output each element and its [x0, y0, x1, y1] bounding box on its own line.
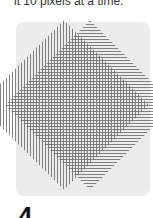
document-page: it 10 pixels at a time. 4 — [0, 0, 153, 218]
step-number: 4 — [18, 203, 32, 218]
stripe-figure — [0, 0, 153, 218]
stripe-band-right — [5, 20, 153, 190]
